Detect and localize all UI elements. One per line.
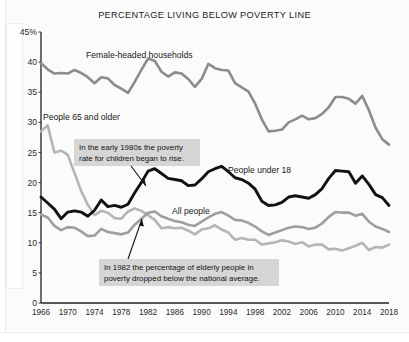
series-label-female-headed: Female-headed households — [86, 50, 193, 60]
x-axis-tick-label: 1986 — [166, 308, 185, 317]
x-axis-tick-label: 2006 — [300, 308, 319, 317]
callout-elderly-line2: poverty dropped below the national avera… — [104, 274, 260, 283]
callout-children-line1: In the early 1980s the poverty — [79, 143, 183, 152]
x-axis-tick-label: 1990 — [193, 308, 212, 317]
y-axis-tick-label: 40 — [27, 57, 37, 67]
series-line-people-under-18 — [41, 166, 389, 218]
x-axis-tick-group: 1966197019741978198219861990199419982002… — [32, 308, 399, 317]
x-axis-tick-label: 1974 — [85, 308, 104, 317]
series-label-people-under-18: People under 18 — [228, 165, 291, 175]
y-axis-tick-label: 35 — [27, 87, 37, 97]
y-axis-tick-label: 0 — [32, 298, 37, 308]
x-axis-tick-label: 2014 — [353, 308, 372, 317]
y-axis-tick-label: 10 — [27, 238, 37, 248]
callout-elderly: In 1982 the percentage of elderly people… — [99, 219, 279, 286]
y-axis-tick-group: 051015202530354045% — [20, 27, 41, 308]
x-axis-tick-label: 1970 — [59, 308, 78, 317]
callout-children-line2: rate for children began to rise. — [79, 154, 184, 163]
x-axis-tick-label: 2018 — [380, 308, 399, 317]
x-axis-tick-label: 2010 — [326, 308, 345, 317]
callout-elderly-line1: In 1982 the percentage of elderly people… — [104, 263, 254, 272]
y-axis-tick-label: 45% — [20, 27, 38, 37]
y-axis-tick-label: 20 — [27, 178, 37, 188]
y-axis-tick-label: 15 — [27, 208, 37, 218]
chart-figure: PERCENTAGE LIVING BELOW POVERTY LINE 051… — [0, 0, 409, 342]
line-chart-plot: 051015202530354045% 19661970197419781982… — [0, 0, 409, 342]
x-axis-tick-label: 1982 — [139, 308, 158, 317]
y-axis-tick-label: 25 — [27, 148, 37, 158]
series-line-female-headed-households — [41, 59, 389, 145]
x-axis-tick-label: 1998 — [246, 308, 265, 317]
callout-children: In the early 1980s the poverty rate for … — [74, 139, 200, 186]
y-axis-tick-label: 30 — [27, 117, 37, 127]
series-label-people-65: People 65 and older — [43, 112, 120, 122]
x-axis-tick-label: 1994 — [219, 308, 238, 317]
x-axis-tick-label: 2002 — [273, 308, 292, 317]
x-axis-tick-label: 1966 — [32, 308, 51, 317]
y-axis-tick-label: 5 — [32, 268, 37, 278]
x-axis-tick-label: 1978 — [112, 308, 131, 317]
series-label-all-people: All people — [172, 206, 210, 216]
